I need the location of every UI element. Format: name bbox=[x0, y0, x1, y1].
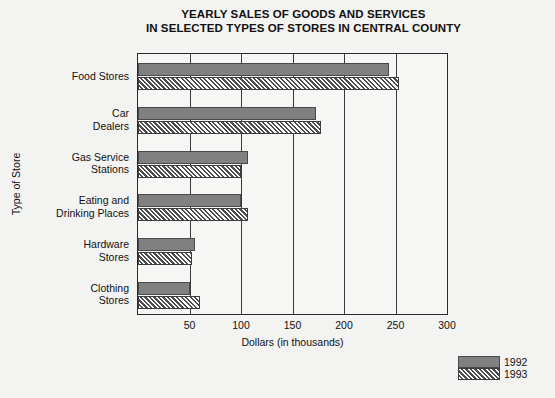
y-axis-label-eating-and-drinking-places: Eating and Drinking Places bbox=[0, 194, 129, 219]
x-tick-label-150: 150 bbox=[284, 319, 302, 331]
legend-label: 1992 bbox=[504, 356, 527, 368]
bar-1992-hardware-stores bbox=[138, 238, 195, 251]
hatched-swatch bbox=[458, 368, 500, 380]
gridline-150 bbox=[293, 54, 294, 314]
bar-1992-clothing-stores bbox=[138, 282, 190, 295]
bar-1993-food-stores bbox=[138, 77, 399, 90]
gridline-200 bbox=[344, 54, 345, 314]
y-axis-label-gas-service-stations: Gas Service Stations bbox=[0, 151, 129, 176]
bar-chart: YEARLY SALES OF GOODS AND SERVICES IN SE… bbox=[0, 0, 555, 398]
y-axis-label-clothing-stores: Clothing Stores bbox=[0, 282, 129, 307]
bar-1992-eating-and-drinking-places bbox=[138, 194, 241, 207]
plot-area bbox=[137, 53, 448, 315]
chart-title-line-1: YEARLY SALES OF GOODS AND SERVICES bbox=[52, 7, 555, 21]
chart-title-line-2: IN SELECTED TYPES OF STORES IN CENTRAL C… bbox=[52, 21, 555, 35]
y-axis-label-food-stores: Food Stores bbox=[0, 70, 129, 83]
y-axis-label-car-dealers: Car Dealers bbox=[0, 107, 129, 132]
legend-item-1993: 1993 bbox=[458, 368, 550, 380]
bar-1993-car-dealers bbox=[138, 121, 321, 134]
x-tick-label-100: 100 bbox=[232, 319, 250, 331]
x-tick-label-300: 300 bbox=[438, 319, 456, 331]
y-axis-labels: Food StoresCar DealersGas Service Statio… bbox=[0, 53, 133, 315]
bar-1993-clothing-stores bbox=[138, 296, 200, 309]
legend-label: 1993 bbox=[504, 368, 527, 380]
x-tick-label-50: 50 bbox=[184, 319, 196, 331]
bar-1993-gas-service-stations bbox=[138, 165, 241, 178]
gridline-250 bbox=[396, 54, 397, 314]
gridline-50 bbox=[190, 54, 191, 314]
x-tick-label-250: 250 bbox=[387, 319, 405, 331]
x-axis-tick-labels: 50100150200250300 bbox=[137, 319, 448, 335]
x-axis-title: Dollars (in thousands) bbox=[137, 336, 448, 348]
chart-title: YEARLY SALES OF GOODS AND SERVICES IN SE… bbox=[0, 7, 555, 35]
bar-1992-car-dealers bbox=[138, 107, 316, 120]
bar-1992-gas-service-stations bbox=[138, 151, 248, 164]
x-tick-label-200: 200 bbox=[335, 319, 353, 331]
y-axis-label-hardware-stores: Hardware Stores bbox=[0, 238, 129, 263]
gridline-100 bbox=[241, 54, 242, 314]
chart-legend: 1992 1993 bbox=[458, 356, 550, 380]
bar-1993-eating-and-drinking-places bbox=[138, 208, 248, 221]
legend-item-1992: 1992 bbox=[458, 356, 550, 368]
bar-1992-food-stores bbox=[138, 63, 389, 76]
bar-1993-hardware-stores bbox=[138, 252, 192, 265]
solid-gray-swatch bbox=[458, 356, 500, 368]
